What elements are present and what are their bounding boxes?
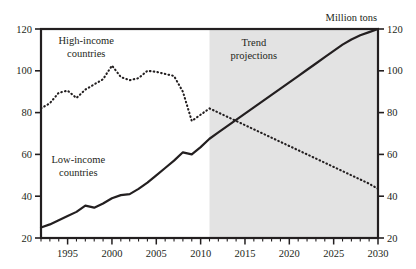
x-tick-label: 1995 [57,248,78,259]
trend-projections-label-line1: Trend [241,37,266,48]
y-tick-label-right: 120 [387,24,403,35]
y-tick-label-right: 60 [387,149,398,160]
x-tick-label: 2020 [279,248,300,259]
y-tick-label-right: 80 [387,107,398,118]
y-tick-label-right: 40 [387,191,398,202]
x-tick-label: 2015 [234,248,255,259]
low-income-label-line2: countries [59,167,98,178]
y-tick-label-right: 20 [387,233,398,244]
x-tick-label: 2010 [190,248,211,259]
chart-figure: 20406080100120 20406080100120 1995200020… [0,0,416,269]
y-tick-label-left: 60 [22,149,33,160]
y-tick-label-left: 80 [22,107,33,118]
x-tick-label: 2030 [368,248,389,259]
low-income-label-line1: Low-income [51,154,105,165]
axis-unit-label: Million tons [326,12,378,23]
high-income-label-line2: countries [67,48,106,59]
y-tick-label-left: 120 [16,24,32,35]
y-tick-label-left: 40 [22,191,33,202]
trend-projections-label-line2: projections [231,50,278,61]
x-tick-label: 2000 [101,248,122,259]
chart-svg: 20406080100120 20406080100120 1995200020… [0,0,416,269]
y-tick-label-left: 20 [22,233,33,244]
high-income-label-line1: High-income [59,35,115,46]
y-tick-label-right: 100 [387,65,403,76]
x-tick-label: 2005 [146,248,167,259]
y-tick-label-left: 100 [16,65,32,76]
x-tick-label: 2025 [323,248,344,259]
